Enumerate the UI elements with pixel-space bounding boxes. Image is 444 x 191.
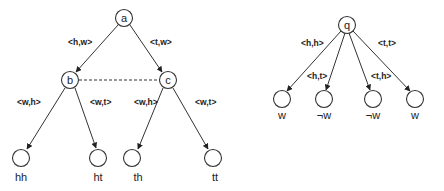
edge-label-q-leaf2: <h,t> bbox=[307, 71, 327, 81]
leaf-label-hh: hh bbox=[15, 171, 27, 183]
leaf-label-3: ¬w bbox=[366, 109, 380, 121]
edge-a-b bbox=[76, 25, 118, 72]
edge-label-a-c: <t,w> bbox=[150, 37, 172, 47]
edge-label-c-th: <w,h> bbox=[134, 97, 158, 107]
edge-label-q-leaf4: <t,t> bbox=[378, 38, 396, 48]
leaf-node-th bbox=[124, 150, 141, 167]
leaf-label-1: w bbox=[277, 109, 286, 121]
leaf-label-th: th bbox=[133, 171, 142, 183]
leaf-node-ht bbox=[90, 150, 107, 167]
edge-label-b-hh: <w,h> bbox=[17, 97, 41, 107]
leaf-node-4 bbox=[407, 91, 424, 108]
node-q-label: q bbox=[344, 19, 350, 31]
leaf-node-tt bbox=[205, 150, 222, 167]
edge-q-leaf2 bbox=[326, 33, 345, 90]
node-b-label: b bbox=[67, 74, 73, 86]
leaf-label-4: w bbox=[410, 109, 419, 121]
leaf-node-3 bbox=[365, 91, 382, 108]
leaf-label-2: ¬w bbox=[317, 109, 331, 121]
node-a-label: a bbox=[121, 12, 128, 24]
leaf-node-hh bbox=[13, 150, 30, 167]
left-tree: <h,w> <t,w> <w,h> <w,t> <w,h> <w,t> a b … bbox=[13, 10, 222, 184]
edge-q-leaf3 bbox=[349, 33, 370, 90]
edge-label-b-ht: <w,t> bbox=[90, 97, 111, 107]
edge-a-c bbox=[130, 25, 162, 72]
leaf-label-tt: tt bbox=[212, 171, 218, 183]
edge-label-a-b: <h,w> bbox=[68, 37, 92, 47]
node-c-label: c bbox=[165, 74, 171, 86]
leaf-node-2 bbox=[316, 91, 333, 108]
edge-label-q-leaf1: <h,h> bbox=[301, 38, 324, 48]
leaf-node-1 bbox=[274, 91, 291, 108]
diagram-canvas: <h,w> <t,w> <w,h> <w,t> <w,h> <w,t> a b … bbox=[0, 0, 444, 191]
right-tree: <h,h> <h,t> <t,h> <t,t> q w ¬w ¬w w bbox=[274, 17, 424, 122]
leaf-label-ht: ht bbox=[93, 171, 102, 183]
edge-label-c-tt: <w,t> bbox=[195, 97, 216, 107]
edge-label-q-leaf3: <t,h> bbox=[371, 71, 391, 81]
